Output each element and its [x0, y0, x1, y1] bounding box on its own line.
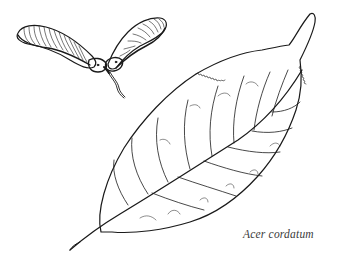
- species-caption: Acer cordatum: [243, 228, 314, 240]
- illustration-canvas: Acer cordatum: [0, 0, 342, 258]
- samara-fruit: [17, 18, 166, 98]
- leaf: [70, 13, 315, 250]
- botanical-illustration: [0, 0, 342, 258]
